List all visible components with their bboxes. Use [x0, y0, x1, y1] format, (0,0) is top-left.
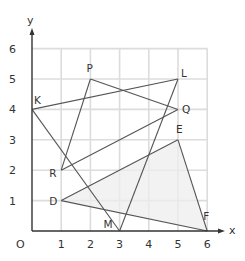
- shaded-triangle-def: [61, 140, 207, 231]
- point-label-P: P: [86, 62, 92, 74]
- y-tick-label: 1: [9, 195, 16, 208]
- x-tick-label: 4: [145, 238, 152, 251]
- segment-PR: [61, 79, 90, 170]
- y-tick-label: 6: [9, 43, 16, 56]
- x-axis-arrow-icon: [218, 229, 225, 234]
- point-label-M: M: [104, 218, 113, 230]
- point-label-D: D: [49, 195, 57, 207]
- point-label-R: R: [49, 167, 56, 179]
- point-label-F: F: [203, 210, 209, 222]
- y-tick-label: 5: [9, 73, 16, 86]
- x-tick-label: 3: [116, 238, 123, 251]
- x-tick-label: 2: [87, 238, 94, 251]
- y-axis-arrow-icon: [30, 28, 35, 35]
- shaded-region: [61, 140, 207, 231]
- point-label-L: L: [181, 67, 187, 79]
- y-axis-label: y: [27, 14, 34, 27]
- x-axis-label: x: [229, 224, 236, 237]
- origin-label: O: [16, 238, 25, 251]
- y-tick-label: 3: [9, 134, 16, 147]
- point-label-E: E: [176, 123, 183, 135]
- y-tick-label: 4: [9, 103, 16, 116]
- x-tick-label: 1: [58, 238, 65, 251]
- x-tick-label: 5: [175, 238, 182, 251]
- x-tick-label: 6: [204, 238, 211, 251]
- point-label-K: K: [34, 94, 42, 106]
- point-label-Q: Q: [182, 103, 190, 115]
- coordinate-diagram: y x O 123456123456 KPLQREDMF: [0, 0, 245, 261]
- y-tick-label: 2: [9, 164, 16, 177]
